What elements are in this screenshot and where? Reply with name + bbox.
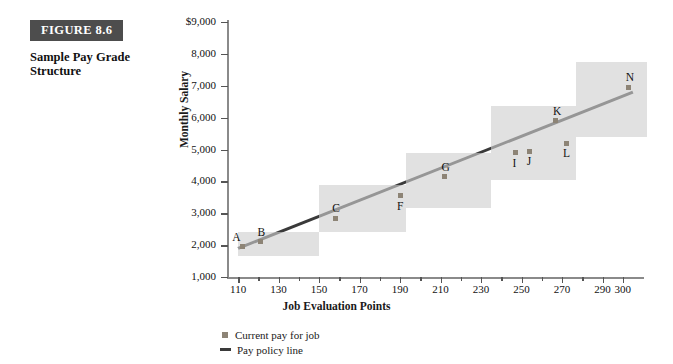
grade-band-1	[238, 232, 319, 256]
x-tick-minor	[501, 277, 502, 281]
data-point-G	[442, 174, 447, 179]
x-tick-minor	[339, 277, 340, 281]
square-marker-icon	[222, 332, 228, 338]
legend-item-current-pay: Current pay for job	[218, 327, 320, 342]
data-point-label-K: K	[553, 105, 561, 117]
x-tick-label: 210	[424, 283, 458, 295]
data-point-label-C: C	[332, 202, 340, 214]
data-point-label-G: G	[442, 161, 450, 173]
x-tick-label: 300	[606, 283, 640, 295]
y-tick	[221, 118, 228, 119]
y-tick-label: 5,000	[150, 143, 216, 155]
x-tick-label: 130	[262, 283, 296, 295]
x-tick-minor	[420, 277, 421, 281]
y-tick-label: 7,000	[150, 79, 216, 91]
y-tick	[221, 54, 228, 55]
data-point-label-A: A	[232, 231, 240, 243]
x-tick-minor	[380, 277, 381, 281]
y-tick	[221, 213, 228, 214]
x-tick-label: 230	[464, 283, 498, 295]
x-tick-label: 190	[383, 283, 417, 295]
data-point-K	[553, 118, 558, 123]
y-tick-label: $9,000	[150, 15, 216, 27]
x-tick-minor	[258, 277, 259, 281]
x-tick-label: 110	[221, 283, 255, 295]
x-tick-label: 150	[302, 283, 336, 295]
x-tick-label: 270	[545, 283, 579, 295]
data-point-label-N: N	[626, 71, 634, 83]
legend-label: Current pay for job	[235, 329, 320, 341]
data-point-B	[258, 239, 263, 244]
line-marker-icon	[220, 348, 231, 351]
y-tick-label: 1,000	[150, 270, 216, 282]
data-point-F	[398, 193, 403, 198]
data-point-label-B: B	[257, 226, 265, 238]
data-point-label-J: J	[527, 155, 531, 167]
y-tick	[221, 245, 228, 246]
data-point-J	[527, 149, 532, 154]
y-tick-label: 3,000	[150, 206, 216, 218]
data-point-C	[333, 216, 338, 221]
y-tick	[221, 181, 228, 182]
y-tick	[221, 22, 228, 23]
y-tick	[221, 86, 228, 87]
y-tick-label: 4,000	[150, 174, 216, 186]
y-tick	[221, 277, 228, 278]
x-tick-label: 170	[343, 283, 377, 295]
x-tick-minor	[582, 277, 583, 281]
y-tick-label: 2,000	[150, 238, 216, 250]
y-tick	[221, 150, 228, 151]
y-tick-label: 6,000	[150, 111, 216, 123]
chart-legend: Current pay for job Pay policy line	[218, 327, 320, 357]
pay-grade-chart: Monthly Salary Job Evaluation Points $9,…	[0, 0, 673, 364]
data-point-N	[626, 85, 631, 90]
data-point-label-I: I	[512, 157, 516, 169]
legend-label: Pay policy line	[237, 344, 303, 356]
legend-item-policy-line: Pay policy line	[218, 342, 320, 357]
x-tick-minor	[542, 277, 543, 281]
x-tick-label: 250	[505, 283, 539, 295]
grade-band-5	[576, 62, 647, 137]
y-tick-label: 8,000	[150, 47, 216, 59]
data-point-label-L: L	[563, 147, 570, 159]
data-point-I	[513, 150, 518, 155]
data-point-L	[564, 141, 569, 146]
x-tick-minor	[299, 277, 300, 281]
x-tick-minor	[461, 277, 462, 281]
data-point-A	[240, 244, 245, 249]
data-point-label-F: F	[397, 200, 403, 212]
x-axis-title: Job Evaluation Points	[0, 300, 673, 312]
